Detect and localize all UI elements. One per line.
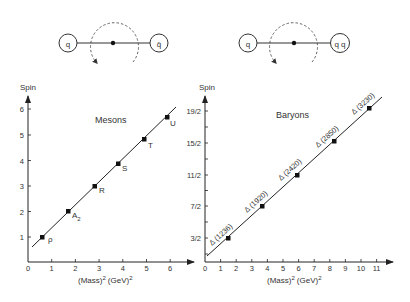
y-tick-label: 4 — [20, 157, 24, 166]
x-axis-label: (Mass)2(GeV)2 — [267, 275, 322, 285]
antiquark-label: q̄ — [157, 40, 162, 49]
point-label-a2: A2 — [72, 211, 81, 222]
x-tick-label: 6 — [297, 264, 301, 273]
point-label-rho: ρ — [48, 235, 53, 244]
y-tick-label: 15/2 — [186, 139, 201, 148]
x-tick-label: 0 — [203, 264, 207, 273]
y-tick-label: 3 — [20, 182, 24, 191]
center-of-mass-dot — [111, 41, 115, 45]
y-tick-label: 3/2 — [191, 234, 201, 243]
x-tick-label: 11 — [373, 264, 381, 273]
x-tick-label: 3 — [250, 264, 254, 273]
point-label-delta-1920: Δ (1920) — [242, 188, 269, 214]
y-axis-label: Spin — [199, 83, 215, 92]
center-of-mass-dot — [292, 41, 296, 45]
regge-trajectory-line — [207, 97, 382, 256]
x-tick-label: 1 — [50, 264, 54, 273]
point-label-delta-2420: Δ (2420) — [276, 156, 303, 182]
x-tick-label: 5 — [281, 264, 285, 273]
x-tick-label: 6 — [168, 264, 172, 273]
x-axis-label: (Mass)2(GeV)2 — [78, 275, 133, 285]
y-tick-label: 1 — [20, 233, 24, 242]
x-tick-label: 8 — [328, 264, 332, 273]
x-tick-label: 4 — [121, 264, 125, 273]
x-tick-label: 3 — [97, 264, 101, 273]
mesons-chart: Spin 0 1 2 3 4 5 6 — [20, 83, 194, 285]
point-label-u: U — [170, 119, 176, 128]
y-tick-label: 11/2 — [187, 171, 201, 180]
regge-trajectories-figure: q q̄ q q q Spin 0 1 2 — [0, 0, 410, 302]
point-label-delta-3230: Δ (3230) — [349, 90, 376, 116]
point-label-delta-2850: Δ (2850) — [313, 123, 340, 149]
chart-title: Mesons — [95, 115, 127, 125]
baryons-chart: Spin 0 1 2 3 4 5 6 7 8 9 10 — [186, 83, 393, 285]
baryon-string-diagram: q q q — [239, 23, 350, 62]
point-label-t: T — [148, 141, 153, 150]
regge-trajectory-line — [32, 107, 176, 247]
x-tick-label: 0 — [26, 264, 30, 273]
y-tick-label: 2 — [20, 208, 24, 217]
quark-label: q — [246, 40, 250, 49]
x-tick-label: 1 — [219, 264, 223, 273]
point-label-s: S — [122, 164, 127, 173]
x-tick-label: 4 — [265, 264, 269, 273]
x-tick-label: 10 — [357, 264, 365, 273]
chart-title: Baryons — [276, 110, 310, 120]
y-axis-label: Spin — [20, 83, 36, 92]
meson-string-diagram: q q̄ — [59, 23, 168, 62]
x-tick-label: 2 — [73, 264, 77, 273]
x-tick-label: 9 — [343, 264, 347, 273]
x-tick-label: 7 — [312, 264, 316, 273]
diquark-label: q q — [334, 40, 345, 49]
quark-label: q — [66, 40, 70, 49]
point-label-r: R — [99, 186, 105, 195]
y-tick-label: 5 — [20, 131, 24, 140]
x-tick-label: 5 — [144, 264, 148, 273]
y-tick-label: 19/2 — [186, 107, 201, 116]
y-tick-label: 7/2 — [191, 202, 201, 211]
y-tick-label: 6 — [20, 105, 24, 114]
x-tick-label: 2 — [234, 264, 238, 273]
